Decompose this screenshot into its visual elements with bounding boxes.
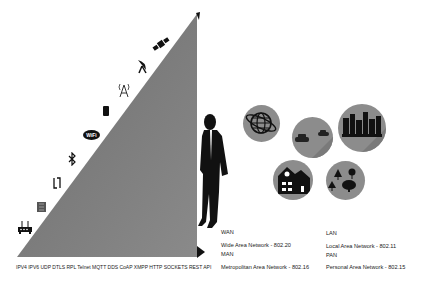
router-icon [18, 221, 32, 235]
bluetooth-icon [68, 152, 76, 166]
rfid-chip-icon [37, 202, 46, 212]
pan-heading: PAN [326, 252, 337, 258]
globe-icon [243, 105, 280, 142]
house-icon [273, 160, 313, 200]
wan-description: Wide Area Network - 802.20 [221, 242, 291, 248]
man-description: Metropolitan Area Network - 802.16 [221, 264, 309, 270]
man-cars-circle [292, 117, 333, 158]
nfc-icon [52, 177, 62, 189]
man-city-circle [338, 104, 386, 152]
trees-icon [326, 161, 365, 200]
svg-text:WiFi: WiFi [86, 132, 97, 138]
wan-heading: WAN [221, 229, 234, 235]
city-skyline-icon [338, 104, 386, 152]
man-heading: MAN [221, 251, 233, 257]
satellite-dish-icon [136, 58, 150, 74]
lan-description: Local Area Network - 802.11 [326, 243, 396, 249]
wan-globe-circle [243, 105, 280, 142]
cell-tower-icon [118, 82, 130, 98]
cars-icon [292, 117, 333, 158]
pan-description: Personal Area Network - 802.15 [326, 264, 405, 270]
pan-trees-circle [326, 161, 365, 200]
businessman-silhouette [198, 112, 232, 234]
mobile-phone-icon [103, 106, 109, 116]
lan-house-circle [273, 160, 313, 200]
satellite-icon [152, 36, 170, 52]
wifi-icon: WiFi [83, 130, 100, 140]
protocol-list: IPV4 IPV6 UDP DTLS RPL Telnet MQTT DDS C… [16, 264, 211, 270]
lan-heading: LAN [326, 230, 337, 236]
